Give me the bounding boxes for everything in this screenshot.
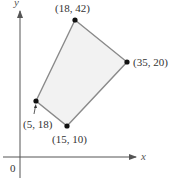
vertex-15-10 [64, 123, 69, 128]
vertex-35-20 [124, 59, 129, 64]
feasible-region [36, 20, 127, 126]
vertex-label-18-42: (18, 42) [55, 2, 90, 15]
coordinate-diagram: x y 0 (18, 42) (35, 20) (15, 10) (5, 18) [0, 0, 169, 179]
vertex-18-42 [72, 17, 77, 22]
vertex-5-18 [33, 98, 38, 103]
y-axis-label: y [13, 0, 19, 8]
pointer-arrowhead-icon [34, 104, 37, 108]
vertex-label-15-10: (15, 10) [52, 133, 87, 146]
vertex-label-35-20: (35, 20) [133, 56, 168, 69]
origin-label: 0 [10, 162, 16, 174]
x-axis-label: x [140, 150, 146, 162]
vertex-label-5-18: (5, 18) [23, 118, 53, 131]
